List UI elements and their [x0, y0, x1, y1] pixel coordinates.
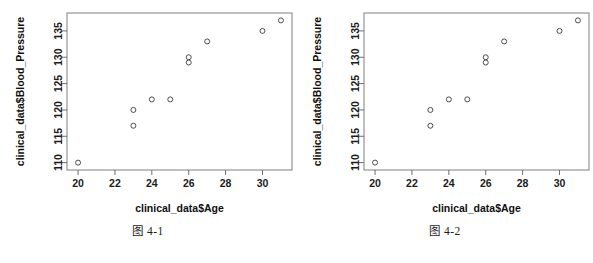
svg-text:24: 24: [146, 177, 158, 189]
svg-text:30: 30: [257, 177, 269, 189]
svg-text:24: 24: [443, 177, 455, 189]
scatter-plot-1: 202224262830110115120125130135clinical_d…: [0, 0, 296, 215]
svg-text:110: 110: [52, 154, 64, 171]
svg-text:26: 26: [480, 177, 492, 189]
svg-text:28: 28: [220, 177, 232, 189]
svg-text:20: 20: [72, 177, 84, 189]
svg-text:115: 115: [52, 128, 64, 145]
figure-caption-1: 图 4-1: [0, 222, 296, 238]
svg-text:clinical_data$Age: clinical_data$Age: [135, 202, 224, 214]
figure-panel-1: 202224262830110115120125130135clinical_d…: [0, 0, 296, 263]
scatter-plot-2: 202224262830110115120125130135clinical_d…: [297, 0, 593, 215]
scatter-plot-svg-2: 202224262830110115120125130135clinical_d…: [297, 0, 593, 215]
svg-text:clinical_data$Age: clinical_data$Age: [432, 202, 521, 214]
svg-text:120: 120: [52, 101, 64, 119]
svg-text:125: 125: [52, 75, 64, 93]
figure-pair-page: 202224262830110115120125130135clinical_d…: [0, 0, 593, 263]
svg-text:135: 135: [52, 22, 64, 40]
svg-text:30: 30: [554, 177, 566, 189]
figure-caption-2: 图 4-2: [297, 222, 593, 238]
scatter-plot-svg-1: 202224262830110115120125130135clinical_d…: [0, 0, 296, 215]
svg-text:110: 110: [349, 154, 361, 171]
svg-text:28: 28: [517, 177, 529, 189]
svg-text:22: 22: [406, 177, 418, 189]
svg-text:135: 135: [349, 22, 361, 40]
svg-text:120: 120: [349, 101, 361, 119]
svg-text:20: 20: [369, 177, 381, 189]
svg-text:clinical_data$Blood_Pressure: clinical_data$Blood_Pressure: [14, 17, 26, 167]
svg-text:26: 26: [183, 177, 195, 189]
svg-text:115: 115: [349, 128, 361, 145]
svg-text:clinical_data$Blood_Pressure: clinical_data$Blood_Pressure: [311, 17, 323, 167]
svg-text:130: 130: [52, 48, 64, 66]
svg-text:130: 130: [349, 48, 361, 66]
svg-text:22: 22: [109, 177, 121, 189]
svg-text:125: 125: [349, 75, 361, 93]
figure-panel-2: 202224262830110115120125130135clinical_d…: [297, 0, 593, 263]
